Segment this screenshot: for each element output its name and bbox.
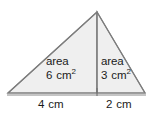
right-base-unit: cm [116,98,131,110]
right-area-exponent: 2 [126,67,130,76]
right-area-unit: cm [111,69,126,81]
left-base-unit: cm [48,98,63,110]
left-area-word: area [46,55,76,68]
left-base-dimension-label: 4 cm [38,98,63,111]
geometry-figure: area 6 cm2 area 3 cm2 4 cm 2 cm [0,0,154,115]
left-area-unit: cm [56,69,71,81]
right-area-label: area 3 cm2 [101,55,131,81]
right-area-value: 3 cm2 [101,69,131,82]
left-area-label: area 6 cm2 [46,55,76,81]
left-area-value: 6 cm2 [46,69,76,82]
right-base-dimension-label: 2 cm [106,98,131,111]
left-area-exponent: 2 [71,67,75,76]
right-area-word: area [101,55,131,68]
